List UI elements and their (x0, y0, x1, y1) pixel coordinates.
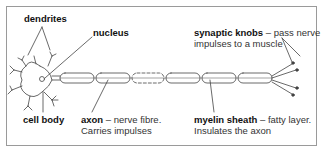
myelin-sheath-label: myelin sheath – fatty layer.Insulates th… (194, 114, 311, 136)
dendrites-label: dendrites (24, 13, 67, 24)
nucleus-label: nucleus (93, 27, 129, 38)
cell-body-icon (8, 52, 58, 110)
axon-pointer (92, 80, 108, 112)
synaptic-knobs-icon (272, 62, 298, 97)
nucleus-pointer (45, 37, 92, 78)
cell-body-label: cell body (23, 114, 64, 125)
axon-label: axon – nerve fibre.Carries impulses (81, 114, 161, 136)
dendrites-pointer (28, 27, 50, 55)
myelin-pointer (210, 80, 214, 112)
synaptic-knobs-label: synaptic knobs – pass nerveimpulses to a… (194, 27, 320, 49)
axon-icon (52, 73, 272, 83)
